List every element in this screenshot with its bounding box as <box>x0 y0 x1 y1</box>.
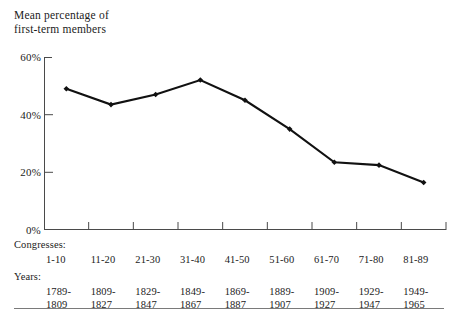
congress-range-label: 51-60 <box>269 253 294 266</box>
plot-area <box>44 57 446 230</box>
year-range-start-label: 1789- <box>46 285 71 298</box>
congress-caption: Congresses: <box>14 238 66 251</box>
bottom-divider <box>14 308 444 309</box>
year-range-start-label: 1949- <box>403 285 428 298</box>
y-tick-label-0: 0% <box>5 225 41 236</box>
congress-range-label: 31-40 <box>180 253 205 266</box>
data-line <box>66 80 423 182</box>
data-point <box>421 180 427 186</box>
congress-range-label: 1-10 <box>46 253 66 266</box>
year-range-start-label: 1909- <box>314 285 339 298</box>
y-tick-label-40: 40% <box>5 110 41 121</box>
year-range-start-label: 1809- <box>91 285 116 298</box>
line-chart-svg <box>44 57 446 230</box>
year-range-end-label: 1827 <box>91 298 112 311</box>
data-point <box>108 102 114 108</box>
years-caption: Years: <box>14 270 41 283</box>
year-range-end-label: 1965 <box>403 298 424 311</box>
congress-range-label: 11-20 <box>91 253 116 266</box>
y-tick-label-60: 60% <box>5 52 41 63</box>
year-range-start-label: 1889- <box>269 285 294 298</box>
congress-range-label: 21-30 <box>135 253 160 266</box>
data-point-markers <box>64 77 427 185</box>
year-range-start-label: 1829- <box>135 285 160 298</box>
data-point <box>153 92 159 98</box>
data-point <box>376 162 382 168</box>
y-tick-label-20: 20% <box>5 167 41 178</box>
year-range-end-label: 1927 <box>314 298 335 311</box>
y-axis-ticks <box>45 115 54 173</box>
congress-range-label: 71-80 <box>359 253 384 266</box>
year-range-start-label: 1849- <box>180 285 205 298</box>
x-axis-ticks <box>89 222 446 230</box>
year-range-end-label: 1907 <box>269 298 290 311</box>
congress-range-label: 61-70 <box>314 253 339 266</box>
congress-range-label: 41-50 <box>225 253 250 266</box>
data-point <box>64 86 70 92</box>
year-range-end-label: 1809 <box>46 298 67 311</box>
year-range-end-label: 1867 <box>180 298 201 311</box>
axis-lines <box>44 57 446 230</box>
year-range-start-label: 1929- <box>359 285 384 298</box>
year-range-end-label: 1847 <box>135 298 156 311</box>
year-range-end-label: 1947 <box>359 298 380 311</box>
congress-range-label: 81-89 <box>403 253 428 266</box>
year-range-start-label: 1869- <box>225 285 250 298</box>
chart-figure: Mean percentage of first-term members 60… <box>0 0 458 323</box>
year-range-end-label: 1887 <box>225 298 246 311</box>
